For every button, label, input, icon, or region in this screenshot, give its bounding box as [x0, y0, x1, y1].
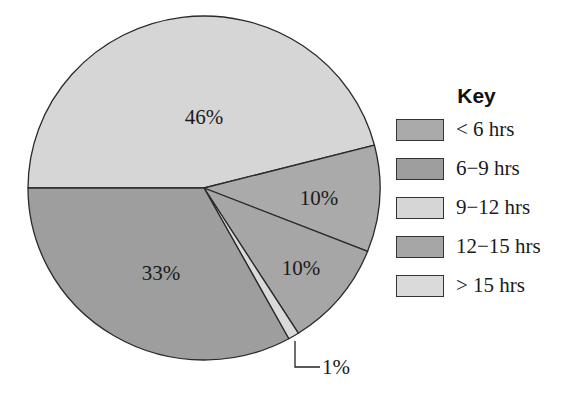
- slice-label-10-12to15: 10%: [282, 256, 321, 280]
- legend-label: < 6 hrs: [456, 117, 515, 142]
- legend-swatch: [396, 236, 444, 258]
- slice-label-10-under6: 10%: [300, 186, 339, 210]
- legend-swatch: [396, 275, 444, 297]
- legend-label: 9−12 hrs: [456, 195, 530, 220]
- legend-title: Key: [404, 82, 549, 110]
- legend-item-6-9: 6−9 hrs: [396, 149, 582, 188]
- callout-leader-line: [295, 341, 320, 367]
- legend-item-12-15: 12−15 hrs: [396, 227, 582, 266]
- legend-swatch: [396, 197, 444, 219]
- legend: Key < 6 hrs 6−9 hrs 9−12 hrs 12−15 hrs >…: [396, 82, 582, 305]
- slice-label-33: 33%: [142, 261, 181, 285]
- slice-label-1-callout: 1%: [322, 355, 350, 379]
- legend-label: 12−15 hrs: [456, 234, 541, 259]
- legend-item-over-15: > 15 hrs: [396, 266, 582, 305]
- legend-label: > 15 hrs: [456, 273, 525, 298]
- legend-item-9-12: 9−12 hrs: [396, 188, 582, 227]
- legend-swatch: [396, 158, 444, 180]
- legend-label: 6−9 hrs: [456, 156, 520, 181]
- slice-label-46: 46%: [185, 105, 224, 129]
- legend-item-under-6: < 6 hrs: [396, 110, 582, 149]
- legend-swatch: [396, 119, 444, 141]
